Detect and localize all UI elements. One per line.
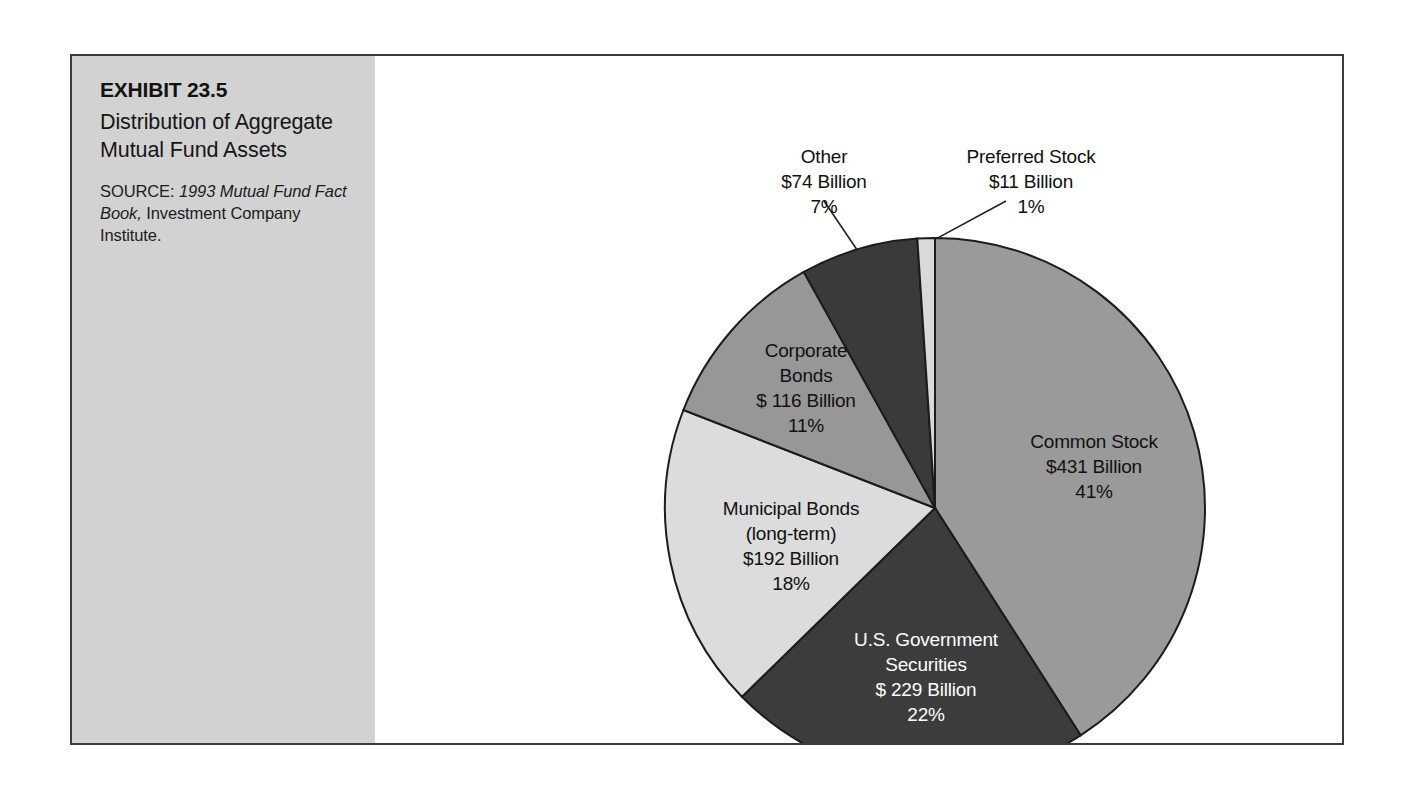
- chart-area: Common Stock$431 Billion41%U.S. Governme…: [375, 56, 1342, 743]
- exhibit-title: Distribution of Aggregate Mutual Fund As…: [100, 109, 349, 165]
- pie-chart: Common Stock$431 Billion41%U.S. Governme…: [375, 56, 1344, 743]
- exhibit-number: EXHIBIT 23.5: [100, 78, 349, 103]
- exhibit-source: SOURCE: 1993 Mutual Fund Fact Book, Inve…: [100, 181, 349, 247]
- exhibit-frame: EXHIBIT 23.5 Distribution of Aggregate M…: [70, 54, 1344, 745]
- slice-callout-label: Preferred Stock$11 Billion1%: [967, 146, 1097, 217]
- caption-panel: EXHIBIT 23.5 Distribution of Aggregate M…: [72, 56, 375, 743]
- slice-callout-label: Other$74 Billion7%: [781, 146, 866, 217]
- source-label: SOURCE:: [100, 182, 179, 200]
- exhibit-page: EXHIBIT 23.5 Distribution of Aggregate M…: [0, 0, 1416, 799]
